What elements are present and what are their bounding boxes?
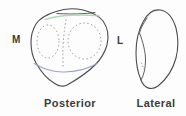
- posterior-view-caption: Posterior: [28, 97, 112, 109]
- posterior-superior-green-line: [45, 15, 99, 19]
- lateral-view-caption: Lateral: [124, 97, 186, 109]
- lateral-dotted-tick-lower: [142, 63, 145, 70]
- medial-side-marker: M: [12, 34, 21, 45]
- anatomical-diagram: M L Posterior Lateral: [0, 0, 186, 116]
- lateral-facet-dotted-outline: [68, 23, 101, 59]
- medial-facet-dotted-outline: [37, 25, 59, 58]
- lateral-view-figure: [136, 10, 178, 89]
- lateral-side-marker: L: [117, 35, 123, 46]
- posterior-view-figure: [31, 9, 108, 86]
- posterior-outline: [31, 9, 108, 86]
- posterior-inferior-blue-line: [34, 64, 97, 73]
- posterior-base-edge-line: [57, 12, 95, 14]
- median-ridge-dotted-line: [63, 20, 66, 67]
